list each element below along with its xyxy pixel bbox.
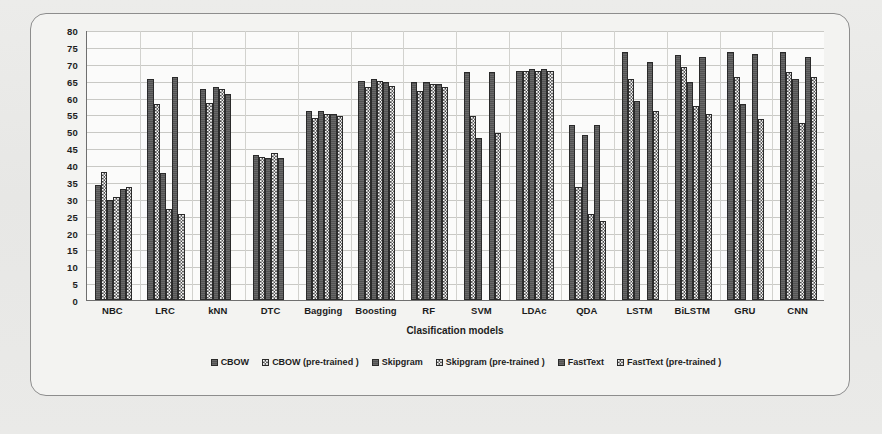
bar <box>442 87 448 300</box>
x-axis-label: LSTM <box>627 305 653 316</box>
legend-label: Skipgram (pre-trained ) <box>446 357 545 367</box>
bar <box>653 111 659 300</box>
chart-legend: CBOWCBOW (pre-trained )SkipgramSkipgram … <box>86 357 846 367</box>
bar-group <box>245 31 298 300</box>
x-axis-title: Clasification models <box>86 325 824 336</box>
x-axis-label: Bagging <box>304 305 342 316</box>
legend-swatch-icon <box>262 359 269 366</box>
y-axis-tick: 25 <box>44 211 78 222</box>
bar-group <box>403 31 456 300</box>
legend-item[interactable]: Skipgram <box>372 357 423 367</box>
y-axis-tick: 60 <box>44 93 78 104</box>
legend-label: FastText <box>568 357 604 367</box>
x-axis-label: RF <box>422 305 435 316</box>
legend-item[interactable]: CBOW <box>211 357 250 367</box>
bar-group <box>140 31 193 300</box>
y-axis-tick: 65 <box>44 76 78 87</box>
y-axis-tick: 20 <box>44 228 78 239</box>
bar <box>178 214 184 300</box>
y-axis-tick: 0 <box>44 296 78 307</box>
legend-item[interactable]: CBOW (pre-trained ) <box>262 357 359 367</box>
legend-item[interactable]: FastText (pre-trained ) <box>617 357 721 367</box>
y-axis-tick: 70 <box>44 59 78 70</box>
x-axis-label: GRU <box>734 305 755 316</box>
x-axis-label: DTC <box>261 305 281 316</box>
bar-group <box>561 31 614 300</box>
plot-area <box>86 31 824 301</box>
bar <box>811 77 817 300</box>
legend-swatch-icon <box>372 359 379 366</box>
x-axis-label: QDA <box>576 305 597 316</box>
y-axis-tick: 75 <box>44 42 78 53</box>
bar-group <box>456 31 509 300</box>
bar <box>337 116 343 300</box>
bar <box>495 133 501 300</box>
y-axis-tick: 15 <box>44 245 78 256</box>
legend-swatch-icon <box>211 359 218 366</box>
y-axis-tick: 50 <box>44 127 78 138</box>
y-axis-tick: 55 <box>44 110 78 121</box>
bar-group <box>192 31 245 300</box>
y-axis-tick: 10 <box>44 262 78 273</box>
x-axis-label: BiLSTM <box>675 305 710 316</box>
bar-group <box>614 31 667 300</box>
legend-label: FastText (pre-trained ) <box>627 357 721 367</box>
legend-label: CBOW <box>221 357 250 367</box>
bar <box>278 158 284 300</box>
bar <box>740 104 746 300</box>
bar-group <box>772 31 825 300</box>
legend-label: Skipgram <box>382 357 423 367</box>
y-axis-tick: 40 <box>44 161 78 172</box>
bar-group <box>351 31 404 300</box>
bar-group <box>667 31 720 300</box>
y-axis-tick: 45 <box>44 144 78 155</box>
x-axis-label: SVM <box>471 305 492 316</box>
y-axis-tick: 5 <box>44 279 78 290</box>
x-axis-label: LDAc <box>522 305 547 316</box>
bar <box>225 94 231 300</box>
bar-group <box>298 31 351 300</box>
legend-label: CBOW (pre-trained ) <box>272 357 359 367</box>
legend-swatch-icon <box>617 359 624 366</box>
y-axis-tick: 35 <box>44 177 78 188</box>
bar-group <box>509 31 562 300</box>
x-axis-label: NBC <box>102 305 123 316</box>
bar <box>758 119 764 300</box>
legend-item[interactable]: Skipgram (pre-trained ) <box>436 357 545 367</box>
bar-group <box>87 31 140 300</box>
bar <box>126 187 132 300</box>
x-axis-label: Boosting <box>355 305 396 316</box>
legend-swatch-icon <box>436 359 443 366</box>
chart-container: 80757065605550454035302520151050 NBCLRCk… <box>30 13 850 396</box>
x-axis-label: LRC <box>155 305 175 316</box>
y-axis: 80757065605550454035302520151050 <box>48 31 82 301</box>
bar <box>389 86 395 300</box>
bar <box>634 101 640 300</box>
x-axis-label: kNN <box>208 305 227 316</box>
y-axis-tick: 30 <box>44 194 78 205</box>
legend-item[interactable]: FastText <box>558 357 604 367</box>
bar <box>706 114 712 300</box>
x-axis-labels: NBCLRCkNNDTCBaggingBoostingRFSVMLDAcQDAL… <box>86 305 824 323</box>
y-axis-tick: 80 <box>44 26 78 37</box>
bar-group <box>720 31 773 300</box>
legend-swatch-icon <box>558 359 565 366</box>
bar <box>547 71 553 301</box>
bar <box>476 138 482 300</box>
x-axis-label: CNN <box>787 305 808 316</box>
bar <box>600 221 606 300</box>
